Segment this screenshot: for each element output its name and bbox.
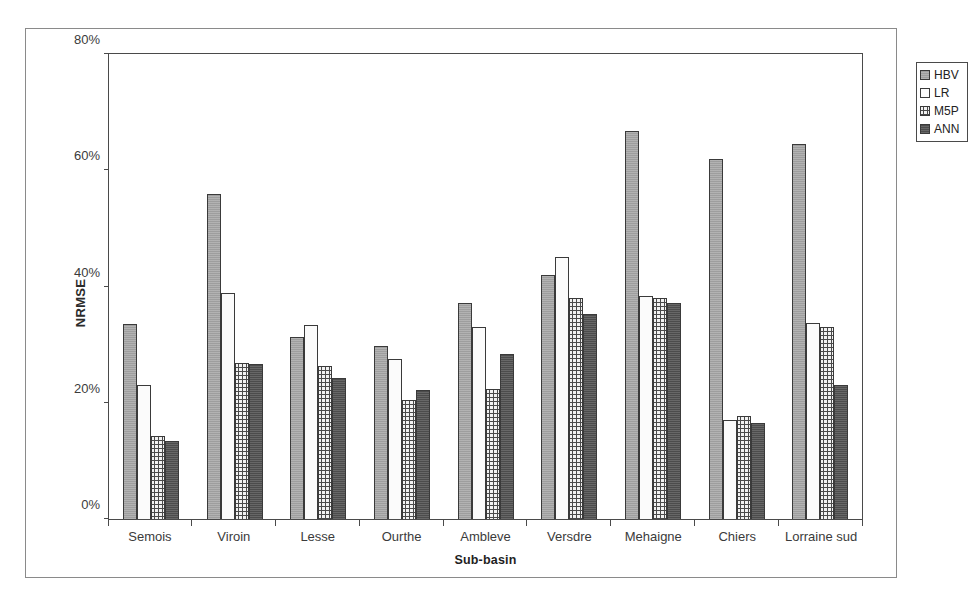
- legend-label: LR: [934, 87, 949, 99]
- bar-m5p-lorraine-sud: [820, 327, 834, 519]
- bar-lr-versdre: [555, 257, 569, 519]
- bar-ann-ourthe: [416, 390, 430, 519]
- legend-label: ANN: [934, 123, 959, 135]
- y-axis-tick-label: 20%: [74, 380, 100, 395]
- chart-legend: HBVLRM5PANN: [916, 62, 968, 142]
- legend-swatch-hbv-icon: [920, 70, 930, 80]
- bar-m5p-ourthe: [402, 400, 416, 519]
- bar-group: [109, 54, 193, 519]
- x-axis-tick-mark: [695, 520, 779, 526]
- bar-lr-mehaigne: [639, 296, 653, 519]
- bar-lr-lorraine-sud: [806, 323, 820, 519]
- x-axis-tick-mark: [276, 520, 360, 526]
- x-axis-tick-mark: [527, 520, 611, 526]
- legend-item-m5p[interactable]: M5P: [920, 102, 963, 120]
- x-axis-tick-mark: [192, 520, 276, 526]
- bar-hbv-semois: [123, 324, 137, 519]
- bar-hbv-ambleve: [458, 303, 472, 519]
- x-axis-tick-mark: [611, 520, 695, 526]
- bar-m5p-ambleve: [486, 389, 500, 519]
- x-axis-label-lorraine-sud: Lorraine sud: [779, 529, 863, 544]
- bar-group: [193, 54, 277, 519]
- bar-group: [778, 54, 862, 519]
- bar-m5p-viroin: [235, 363, 249, 519]
- bar-ann-viroin: [249, 364, 263, 519]
- legend-item-hbv[interactable]: HBV: [920, 66, 963, 84]
- bar-m5p-versdre: [569, 298, 583, 519]
- bar-ann-lorraine-sud: [834, 385, 848, 519]
- bar-lr-ourthe: [388, 359, 402, 519]
- x-axis-tick-mark: [360, 520, 444, 526]
- bar-ann-chiers: [751, 423, 765, 519]
- legend-item-ann[interactable]: ANN: [920, 120, 963, 138]
- legend-label: M5P: [934, 105, 959, 117]
- x-axis-tick-mark: [108, 520, 192, 526]
- x-axis-label-ourthe: Ourthe: [360, 529, 444, 544]
- bar-m5p-lesse: [318, 366, 332, 519]
- legend-swatch-lr-icon: [920, 88, 930, 98]
- x-axis-tick-mark: [779, 520, 863, 526]
- x-axis-label-versdre: Versdre: [527, 529, 611, 544]
- x-axis-tick-mark: [444, 520, 528, 526]
- x-axis-ticks: [108, 520, 863, 526]
- y-axis-tick-label: 80%: [74, 32, 100, 47]
- bar-hbv-viroin: [207, 194, 221, 520]
- bar-lr-semois: [137, 385, 151, 519]
- bar-lr-lesse: [304, 325, 318, 519]
- bar-ann-versdre: [583, 314, 597, 519]
- x-axis-label-viroin: Viroin: [192, 529, 276, 544]
- bar-hbv-versdre: [541, 275, 555, 519]
- bar-ann-semois: [165, 441, 179, 519]
- bar-hbv-chiers: [709, 159, 723, 519]
- y-axis-tick-label: 0%: [81, 497, 100, 512]
- legend-swatch-m5p-icon: [920, 106, 930, 116]
- bar-group: [276, 54, 360, 519]
- bar-m5p-mehaigne: [653, 298, 667, 519]
- bar-ann-ambleve: [500, 354, 514, 519]
- bar-group: [360, 54, 444, 519]
- bar-lr-ambleve: [472, 327, 486, 519]
- y-axis-title: NRMSE: [73, 279, 88, 327]
- x-axis-label-ambleve: Ambleve: [444, 529, 528, 544]
- bar-lr-viroin: [221, 293, 235, 519]
- bar-m5p-chiers: [737, 416, 751, 519]
- legend-item-lr[interactable]: LR: [920, 84, 963, 102]
- bars-layer: [109, 54, 862, 519]
- legend-label: HBV: [934, 69, 959, 81]
- bar-hbv-mehaigne: [625, 131, 639, 519]
- bar-ann-lesse: [332, 378, 346, 519]
- y-axis-tick-label: 60%: [74, 148, 100, 163]
- y-axis-tick-label: 40%: [74, 264, 100, 279]
- figure-frame: NRMSE 0%20%40%60%80% HBVLRM5PANN SemoisV…: [25, 28, 897, 578]
- x-axis-label-chiers: Chiers: [695, 529, 779, 544]
- legend-swatch-ann-icon: [920, 124, 930, 134]
- bar-group: [527, 54, 611, 519]
- bar-hbv-lesse: [290, 337, 304, 519]
- bar-group: [611, 54, 695, 519]
- bar-m5p-semois: [151, 436, 165, 519]
- bar-hbv-lorraine-sud: [792, 144, 806, 519]
- bar-ann-mehaigne: [667, 303, 681, 519]
- x-axis-label-mehaigne: Mehaigne: [611, 529, 695, 544]
- bar-lr-chiers: [723, 420, 737, 519]
- x-axis-title: Sub-basin: [108, 553, 863, 567]
- bar-group: [695, 54, 779, 519]
- bar-group: [444, 54, 528, 519]
- plot-area: 0%20%40%60%80% HBVLRM5PANN: [108, 53, 863, 520]
- x-axis-tick-labels: SemoisViroinLesseOurtheAmbleveVersdreMeh…: [108, 529, 863, 544]
- bar-hbv-ourthe: [374, 346, 388, 519]
- x-axis-label-lesse: Lesse: [276, 529, 360, 544]
- x-axis-label-semois: Semois: [108, 529, 192, 544]
